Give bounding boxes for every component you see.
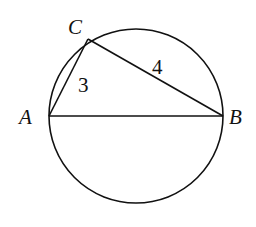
point-label-c: C xyxy=(68,15,83,39)
diagram-canvas: A B C 3 4 xyxy=(0,0,256,227)
segment-label-ac: 3 xyxy=(78,73,89,97)
point-label-a: A xyxy=(17,105,32,129)
point-label-b: B xyxy=(229,105,242,129)
geometry-diagram: A B C 3 4 xyxy=(0,0,256,227)
segment-label-cb: 4 xyxy=(152,55,163,79)
